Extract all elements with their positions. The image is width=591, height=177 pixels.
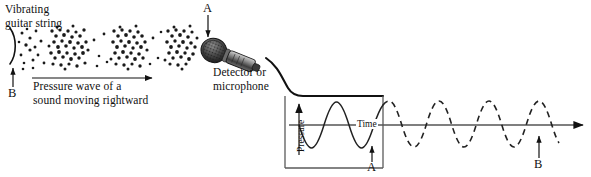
marker-a-bottom-label: A <box>367 160 376 175</box>
marker-b-right-label: B <box>534 157 542 172</box>
pressure-axis-label: Pressure <box>296 120 306 152</box>
detector-label-line1: Detector or <box>213 66 266 78</box>
wave-caption-line2: sound moving rightward <box>33 94 148 106</box>
vibrating-string-arc-icon <box>10 28 15 64</box>
wave-caption-line1: Pressure wave of a <box>33 80 121 92</box>
marker-b-left-label: B <box>8 86 16 101</box>
detector-label-line2: microphone <box>213 80 269 92</box>
detector-label: Detector ormicrophone <box>213 66 269 93</box>
microphone-cable <box>266 58 383 96</box>
source-label-line1: Vibrating <box>5 3 49 15</box>
source-label: Vibratingguitar string <box>5 3 62 30</box>
sound-wave-figure: Vibratingguitar string B Pressure wave o… <box>0 0 591 177</box>
air-particle-field <box>18 25 199 71</box>
pressure-trace-dashed <box>383 101 559 147</box>
source-label-line2: guitar string <box>5 17 62 29</box>
time-axis-label: Time <box>356 119 378 129</box>
wave-direction-caption: Pressure wave of asound moving rightward <box>33 80 148 107</box>
marker-a-top-label: A <box>203 1 212 16</box>
